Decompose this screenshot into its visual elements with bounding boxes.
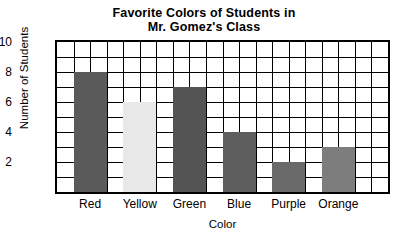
chart-title-line-1: Favorite Colors of Students in: [0, 6, 408, 20]
y-tick-label-2: 2: [0, 156, 12, 168]
grid-line-horizontal: [57, 102, 388, 103]
bar-blue[interactable]: [223, 132, 256, 192]
bar-yellow[interactable]: [123, 102, 156, 192]
y-tick-label-8: 8: [0, 66, 12, 78]
grid-line-horizontal: [57, 117, 388, 118]
plot-inner: [57, 42, 388, 192]
x-axis-title: Color: [55, 218, 390, 231]
y-tick-label-6: 6: [0, 96, 12, 108]
bar-red[interactable]: [74, 72, 107, 192]
grid-line-horizontal: [57, 87, 388, 88]
x-tick-label-orange: Orange: [298, 198, 378, 211]
grid-line-horizontal: [57, 57, 388, 58]
bar-green[interactable]: [173, 87, 206, 192]
grid-line-horizontal: [57, 72, 388, 73]
chart-title: Favorite Colors of Students in Mr. Gomez…: [0, 6, 408, 34]
plot-area: [55, 40, 390, 194]
bar-orange[interactable]: [322, 147, 355, 192]
y-axis-title: Number of Students: [18, 8, 30, 148]
bar-chart: Favorite Colors of Students in Mr. Gomez…: [0, 0, 408, 247]
y-tick-label-4: 4: [0, 126, 12, 138]
y-tick-label-10: 10: [0, 36, 12, 48]
chart-title-line-2: Mr. Gomez's Class: [0, 20, 408, 34]
bar-purple[interactable]: [272, 162, 305, 192]
